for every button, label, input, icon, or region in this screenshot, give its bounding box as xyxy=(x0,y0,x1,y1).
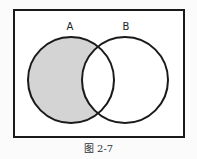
figure-caption: 图 2-7 xyxy=(0,140,197,155)
label-a: A xyxy=(67,21,74,32)
venn-diagram: A B xyxy=(0,0,197,159)
label-b: B xyxy=(123,21,130,32)
